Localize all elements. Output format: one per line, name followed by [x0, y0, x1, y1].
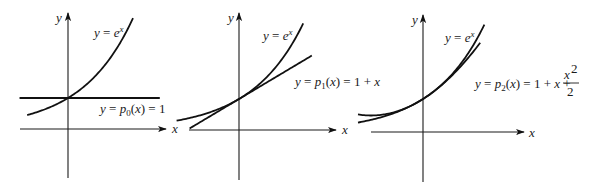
x-axis-label: x: [171, 121, 178, 136]
x-axis-label: x: [341, 122, 348, 137]
x-axis-label: x: [528, 125, 535, 140]
exp-curve-label: y = ex: [443, 29, 474, 45]
exp-curve-label: y = ex: [92, 24, 123, 40]
panel-p1: x y y = ex y = p1(x) = 1 + x: [177, 10, 381, 180]
fraction-x-squared-over-2: x 2 2: [563, 61, 579, 99]
panel-p2: x y y = ex y = p2(x) = 1 + x + x 2 2: [358, 12, 579, 182]
y-axis-label: y: [226, 10, 234, 25]
svg-text:x: x: [563, 67, 570, 82]
y-axis-label: y: [410, 12, 418, 27]
svg-text:2: 2: [567, 84, 574, 99]
panel-p0: x y y = ex y = p0(x) = 1: [20, 10, 178, 178]
exp-curve-label: y = ex: [261, 27, 292, 43]
approx-curve-label: y = p1(x) = 1 + x: [293, 74, 380, 91]
svg-text:2: 2: [571, 61, 578, 76]
y-axis-label: y: [54, 10, 62, 25]
taylor-figure: x y y = ex y = p0(x) = 1 x y y = ex y = …: [0, 0, 593, 192]
approx-curve-label: y = p2(x) = 1 + x +: [473, 76, 571, 93]
approx-curve-label: y = p0(x) = 1: [98, 101, 165, 118]
approx-curve-p1: [190, 56, 312, 129]
